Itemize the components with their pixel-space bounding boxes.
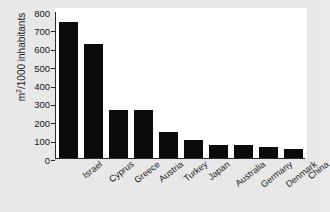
bar [284, 149, 304, 158]
y-axis-label-superscript: 2 [15, 89, 22, 93]
x-tick-label: Turkey [181, 159, 209, 184]
y-tick-label: 200 [28, 118, 50, 129]
y-tick-label: 600 [28, 44, 50, 55]
x-tick-label: Israel [80, 159, 104, 180]
x-tick-label: Japan [206, 159, 231, 182]
y-axis-label: m2/1000 inhabitants [15, 0, 29, 117]
bar [209, 145, 229, 158]
plot-area [55, 12, 305, 159]
y-tick-label: 400 [28, 81, 50, 92]
y-tick-mark [51, 31, 55, 32]
y-axis-label-rest: /1000 inhabitants [16, 13, 27, 89]
bar [109, 110, 129, 158]
bar [259, 147, 279, 158]
x-tick-label: Austria [156, 159, 184, 184]
y-tick-mark [51, 87, 55, 88]
bar [59, 22, 79, 158]
y-axis-tick-labels: 0100200300400500600700800 [28, 13, 50, 159]
y-tick-mark [51, 105, 55, 106]
y-tick-mark [51, 123, 55, 124]
bar-series [56, 12, 305, 158]
y-tick-label: 500 [28, 63, 50, 74]
bar [159, 132, 179, 158]
y-tick-mark [51, 142, 55, 143]
y-tick-label: 0 [28, 155, 50, 166]
x-tick-label: Greece [132, 159, 161, 185]
y-axis-label-base: m [16, 93, 27, 101]
x-tick-label: Cyprus [107, 159, 136, 184]
bar [184, 140, 204, 158]
y-tick-label: 100 [28, 136, 50, 147]
y-tick-mark [51, 160, 55, 161]
y-tick-label: 300 [28, 99, 50, 110]
bar [234, 145, 254, 158]
y-tick-mark [51, 68, 55, 69]
y-tick-label: 800 [28, 8, 50, 19]
bar [84, 44, 104, 158]
y-tick-label: 700 [28, 26, 50, 37]
x-axis-tick-labels: IsraelCyprusGreeceAustriaTurkeyJapanAust… [55, 159, 307, 209]
bar [134, 110, 154, 158]
y-tick-mark [51, 50, 55, 51]
